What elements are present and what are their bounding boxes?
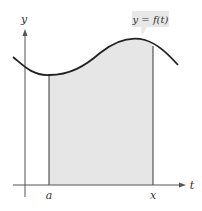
shaded-area-region (49, 39, 153, 185)
t-axis-arrow-icon (179, 183, 186, 188)
upper-bound-label: x (150, 189, 157, 202)
y-axis-label: y (20, 13, 28, 26)
curve-label: y = f(t) (132, 14, 169, 25)
curve-label-callout: y = f(t) (132, 11, 169, 36)
lower-bound-label: a (46, 189, 53, 202)
y-axis-arrow-icon (23, 29, 28, 36)
t-axis-label: t (190, 179, 195, 192)
area-under-curve-diagram: y = f(t) y t a x (0, 0, 202, 211)
